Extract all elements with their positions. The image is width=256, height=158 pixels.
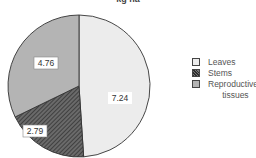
legend-label: Leaves <box>208 57 235 68</box>
legend: Leaves Stems Reproductive tissues <box>192 57 256 101</box>
reproductive-swatch-icon <box>192 80 200 88</box>
data-label: 7.24 <box>108 92 132 104</box>
legend-item-leaves: Leaves <box>192 57 256 68</box>
svg-text:7.24: 7.24 <box>112 93 129 103</box>
legend-label: Reproductive tissues <box>208 79 256 101</box>
leaves-swatch-icon <box>192 58 200 66</box>
legend-item-reproductive-tissues: Reproductive tissues <box>192 79 256 101</box>
stems-swatch-icon <box>192 69 200 77</box>
legend-label: Stems <box>208 68 232 79</box>
data-label: 4.76 <box>34 57 58 69</box>
svg-text:4.76: 4.76 <box>38 58 55 68</box>
data-label: 2.79 <box>23 125 47 137</box>
svg-text:2.79: 2.79 <box>27 126 44 136</box>
pie-slice-leaves <box>79 15 150 157</box>
legend-item-stems: Stems <box>192 68 256 79</box>
